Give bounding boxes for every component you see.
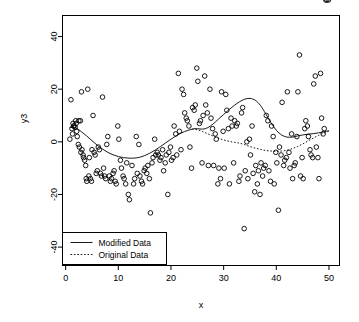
scatter-point [252,190,257,195]
scatter-point [302,126,307,131]
scatter-point [223,92,228,97]
scatter-point [272,182,277,187]
scatter-point [193,103,198,108]
scatter-point [231,161,236,166]
x-tick-label: 20 [166,273,176,283]
scatter-point [119,166,124,171]
scatter-point [168,145,173,150]
scatter-point [179,147,184,152]
scatter-point [219,90,224,95]
scatter-point [245,140,250,145]
scatter-point [232,118,237,123]
scatter-point [91,113,96,118]
scatter-point [137,142,142,147]
scatter-point [160,147,165,152]
scatter-point [237,179,242,184]
scatter-point [285,90,290,95]
scatter-point [305,124,310,129]
scatter-point [164,153,169,158]
scatter-point [130,163,135,168]
scatter-point [240,105,245,110]
legend-label-modified: Modified Data [99,238,152,248]
scatter-point [248,153,253,158]
x-axis-label: x [199,300,204,310]
scatter-point [313,74,318,79]
scatter-point [147,176,152,181]
scatter-point [260,174,265,179]
scatter-point [211,163,216,168]
scatter-point [298,174,303,179]
x-tick-label: 0 [63,273,68,283]
scatter-point [296,90,301,95]
scatter-point [279,153,284,158]
scatter-point [297,53,302,58]
scatter-point [135,171,140,176]
scatter-point [194,66,199,71]
scatter-point [217,166,222,171]
scatter-point [255,182,260,187]
scatter-point [148,211,153,216]
scatter-point [318,71,323,76]
scatter-point [196,79,201,84]
scatter-point [227,182,232,187]
scatter-point [79,90,84,95]
scatter-point [322,126,327,131]
legend: Modified DataOriginal Data [63,233,167,265]
scatter-point [221,129,226,134]
scatter-point [287,150,292,155]
scatter-point [68,137,73,142]
scatter-point [100,95,105,100]
scatter-point [218,176,223,181]
scatter-point [115,124,120,129]
scatter-point [167,150,172,155]
scatter-point [306,134,311,139]
scatter-point [174,153,179,158]
scatter-point [271,134,276,139]
scatter-point [213,132,218,137]
scatter-point [152,137,157,142]
scatter-point [256,168,261,173]
scatter-point [124,161,129,166]
scatter-point [205,111,210,116]
scatter-point [289,132,294,137]
scatter-point [203,103,208,108]
y-tick-label: -20 [50,188,60,201]
scatter-point [202,74,207,79]
scatter-point [172,124,177,129]
modified-data-curve [70,98,329,158]
scatter-point [85,87,90,92]
scatter-point [75,134,80,139]
scatter-point [239,111,244,116]
scatter-point [176,71,181,76]
scatter-point [126,192,131,197]
scatter-point [288,166,293,171]
scatter-point [117,137,122,142]
scatter-point [131,182,136,187]
scatter-point [281,163,286,168]
scatter-point [87,155,92,160]
scatter-point [253,163,258,168]
scatter-point [69,97,74,102]
scatter-point [101,166,106,171]
scatter-point [187,124,192,129]
scatter-point [216,182,221,187]
scatter-point [161,168,166,173]
scatter-point [163,161,168,166]
scatter-point [247,137,252,142]
scatter-point [238,174,243,179]
scatter-point [210,126,215,131]
scatter-point [301,176,306,181]
y-tick-label: 40 [50,32,60,42]
scatter-point [181,92,186,97]
scatter-point [118,158,123,163]
legend-label-original: Original Data [99,250,149,260]
scatter-point [290,176,295,181]
scatter-point [304,118,309,123]
scatter-point [267,168,272,173]
scatter-point [138,174,143,179]
scatter-point [208,87,213,92]
scatter-point [180,87,185,92]
scatter-point [251,171,256,176]
scatter-point [317,176,322,181]
scatter-plot-figure: -40-200204001020304050xy3Modified DataOr… [0,0,359,322]
